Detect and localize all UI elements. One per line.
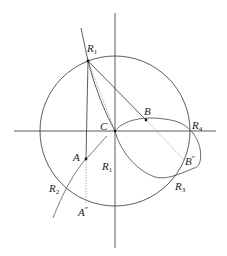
r1-to-a-line bbox=[86, 61, 88, 159]
geometric-construction-diagram: R1 B C R4 A R1 B″ R2 R3 A″ bbox=[0, 0, 227, 256]
point-c bbox=[114, 130, 116, 132]
label-c: C bbox=[100, 120, 108, 132]
point-a bbox=[85, 158, 88, 161]
label-b: B bbox=[144, 105, 151, 117]
label-b-double-prime: B″ bbox=[185, 155, 195, 167]
label-r4: R4 bbox=[191, 119, 203, 133]
label-a: A bbox=[72, 151, 80, 163]
b-to-b-double-prime-dotted bbox=[146, 120, 184, 160]
label-a-double-prime: A″ bbox=[77, 206, 88, 218]
label-r1-lower: R1 bbox=[101, 160, 113, 174]
point-r1 bbox=[87, 60, 90, 63]
label-r3: R3 bbox=[174, 180, 186, 194]
label-r2: R2 bbox=[48, 182, 60, 196]
point-b bbox=[145, 119, 148, 122]
label-r1-top: R1 bbox=[86, 42, 98, 56]
